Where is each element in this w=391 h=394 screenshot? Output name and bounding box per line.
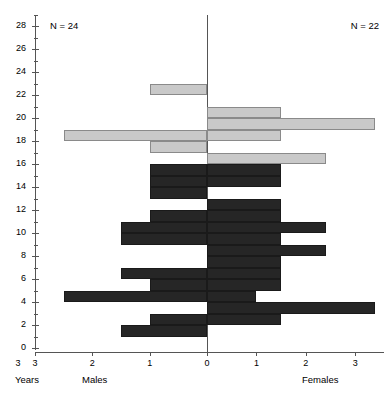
males-count-annotation: N = 24 — [50, 20, 78, 31]
y-axis-tick — [32, 49, 39, 50]
y-axis-tick — [34, 291, 38, 292]
bar-females-dark-age-14 — [207, 176, 281, 188]
y-axis-tick — [34, 337, 38, 338]
y-axis-line — [35, 15, 36, 350]
y-axis-tick — [34, 176, 38, 177]
y-axis-tick-label: 18 — [6, 136, 26, 145]
y-axis-tick — [34, 222, 38, 223]
y-axis-tick — [32, 302, 39, 303]
x-axis-tick — [35, 352, 36, 356]
y-axis-tick — [34, 153, 38, 154]
y-axis-tick — [34, 314, 38, 315]
bar-males-light-age-22 — [150, 84, 207, 96]
y-axis-tick — [34, 107, 38, 108]
x-axis-tick-label: 3 — [25, 359, 45, 368]
y-axis-tick — [32, 26, 39, 27]
x-axis-tick-label: 2 — [296, 359, 316, 368]
y-axis-tick-label: 2 — [6, 320, 26, 329]
x-axis-tick-label: 1 — [140, 359, 160, 368]
bar-females-light-age-16 — [207, 153, 326, 165]
y-axis-tick-label: 0 — [6, 343, 26, 352]
x-axis-line — [35, 352, 384, 353]
y-axis-tick — [34, 38, 38, 39]
bar-females-dark-age-3 — [207, 302, 375, 314]
bar-males-dark-age-9 — [121, 233, 207, 245]
x-axis-tick-label: 3 — [345, 359, 365, 368]
x-axis-tick — [256, 352, 257, 356]
y-axis-tick-label: 28 — [6, 21, 26, 30]
x-axis-tick-label: 2 — [82, 359, 102, 368]
y-axis-tick — [34, 61, 38, 62]
y-axis-tick — [34, 199, 38, 200]
y-axis-tick — [32, 95, 39, 96]
y-axis-tick-label: 10 — [6, 228, 26, 237]
x-axis-title-females: Females — [302, 374, 338, 385]
y-axis-tick-label: 16 — [6, 159, 26, 168]
bar-females-dark-age-5 — [207, 279, 281, 291]
bar-females-dark-age-6 — [207, 268, 281, 280]
bar-females-light-age-20 — [207, 107, 281, 119]
y-axis-tick — [32, 187, 39, 188]
y-axis-tick — [32, 141, 39, 142]
bar-males-dark-age-5 — [150, 279, 207, 291]
bar-males-dark-age-6 — [121, 268, 207, 280]
x-axis-tick-label: 1 — [246, 359, 266, 368]
y-axis-tick-label: 26 — [6, 44, 26, 53]
y-axis-tick — [34, 130, 38, 131]
bar-males-light-age-17 — [150, 141, 207, 153]
y-axis-tick — [32, 164, 39, 165]
y-axis-tick — [32, 279, 39, 280]
y-axis-tick — [34, 245, 38, 246]
bar-males-dark-age-1 — [121, 325, 207, 337]
bar-females-dark-age-2 — [207, 314, 281, 326]
bar-females-dark-age-8 — [207, 245, 326, 257]
y-axis-tick — [34, 268, 38, 269]
bar-males-dark-age-14 — [150, 176, 207, 188]
bar-females-dark-age-12 — [207, 199, 281, 211]
x-axis-tick — [92, 352, 93, 356]
y-axis-tick — [32, 210, 39, 211]
x-axis-tick-label: 0 — [197, 359, 217, 368]
bar-males-dark-age-11 — [150, 210, 207, 222]
age-pyramid-chart: 024681012141618202224262832101233 N = 24… — [0, 0, 391, 394]
bar-females-dark-age-11 — [207, 210, 281, 222]
y-axis-tick — [32, 72, 39, 73]
y-axis-tick — [32, 256, 39, 257]
y-axis-tick-label: 24 — [6, 67, 26, 76]
bar-females-light-age-18 — [207, 130, 281, 142]
y-axis-tick-label: 8 — [6, 251, 26, 260]
bar-males-light-age-18 — [64, 130, 207, 142]
y-axis-tick-label: 14 — [6, 182, 26, 191]
x-axis-tick — [355, 352, 356, 356]
y-axis-title: Years — [15, 374, 39, 385]
x-axis-tick-label-outer: 3 — [8, 359, 28, 368]
y-axis-tick — [32, 233, 39, 234]
bar-females-dark-age-10 — [207, 222, 326, 234]
y-axis-tick-label: 20 — [6, 113, 26, 122]
bar-females-dark-age-4 — [207, 291, 256, 303]
x-axis-title-males: Males — [82, 374, 107, 385]
y-axis-tick — [34, 15, 38, 16]
y-axis-tick — [32, 118, 39, 119]
y-axis-tick — [32, 348, 39, 349]
bar-females-dark-age-7 — [207, 256, 281, 268]
y-axis-tick-label: 6 — [6, 274, 26, 283]
females-count-annotation: N = 22 — [351, 20, 379, 31]
bar-females-dark-age-9 — [207, 233, 281, 245]
y-axis-tick — [34, 84, 38, 85]
y-axis-tick-label: 12 — [6, 205, 26, 214]
y-axis-tick — [32, 325, 39, 326]
bar-males-dark-age-10 — [121, 222, 207, 234]
x-axis-tick — [306, 352, 307, 356]
bar-females-dark-age-15 — [207, 164, 281, 176]
x-axis-tick — [207, 352, 208, 356]
x-axis-tick — [150, 352, 151, 356]
bar-males-dark-age-13 — [150, 187, 207, 199]
bar-males-dark-age-15 — [150, 164, 207, 176]
bar-males-dark-age-4 — [64, 291, 207, 303]
y-axis-tick-label: 22 — [6, 90, 26, 99]
y-axis-tick-label: 4 — [6, 297, 26, 306]
bar-females-light-age-19 — [207, 118, 375, 130]
bar-males-dark-age-2 — [150, 314, 207, 326]
